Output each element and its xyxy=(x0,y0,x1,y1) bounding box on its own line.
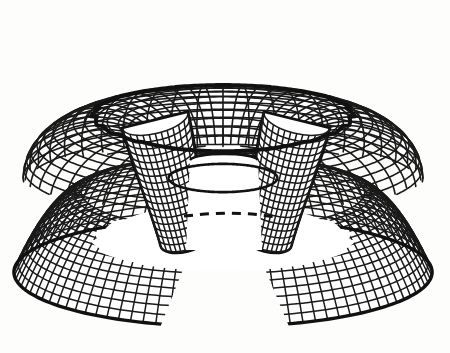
figure-container: Immersed toroidal surface wireframe Blac… xyxy=(0,0,450,353)
central-window xyxy=(186,154,262,250)
torus-wireframe-figure: Immersed toroidal surface wireframe Blac… xyxy=(0,0,450,353)
inner-hole-layer xyxy=(186,154,262,250)
